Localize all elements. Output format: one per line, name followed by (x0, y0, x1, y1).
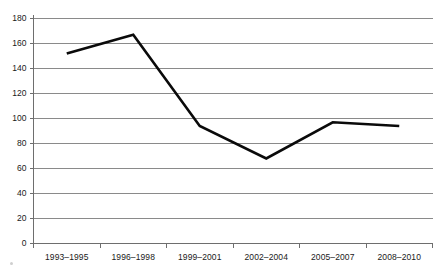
y-tick-label: 20 (17, 213, 27, 223)
chart-canvas: 020406080100120140160180 1993–19951996–1… (0, 0, 444, 273)
x-tick-label: 1993–1995 (45, 252, 89, 262)
scan-speck (10, 262, 13, 265)
y-tick-label: 160 (12, 38, 26, 48)
data-series-line (67, 35, 400, 159)
y-tick-label: 120 (12, 88, 26, 98)
y-tick-label: 140 (12, 63, 26, 73)
y-tick-label: 80 (17, 138, 27, 148)
gridlines-group (34, 19, 433, 219)
x-tick-label: 2002–2004 (245, 252, 289, 262)
x-tick-label: 1999–2001 (178, 252, 222, 262)
x-axis-tick-marks (34, 244, 433, 248)
x-tick-label: 1996–1998 (112, 252, 156, 262)
y-axis-tick-labels: 020406080100120140160180 (12, 13, 26, 248)
y-tick-label: 100 (12, 113, 26, 123)
line-chart: 020406080100120140160180 1993–19951996–1… (0, 0, 444, 273)
x-tick-label: 2005–2007 (311, 252, 355, 262)
x-axis-tick-labels: 1993–19951996–19981999–20012002–20042005… (45, 252, 421, 262)
y-tick-label: 180 (12, 13, 26, 23)
y-tick-label: 40 (17, 188, 27, 198)
y-tick-label: 60 (17, 163, 27, 173)
y-tick-label: 0 (22, 238, 27, 248)
x-tick-label: 2008–2010 (378, 252, 422, 262)
